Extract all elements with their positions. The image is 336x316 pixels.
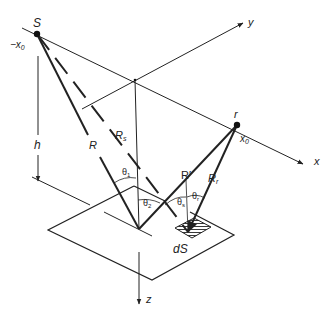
surface-plane [48,186,234,280]
receiver-point [234,122,240,128]
origin-point [134,79,137,82]
theta-r-label: θr [192,191,199,202]
Rprime-label: R′ [181,169,191,181]
h-reference-line [32,177,90,205]
theta1-label: θ1 [122,167,131,178]
source-point [34,31,40,37]
y-axis-label: y [247,16,255,28]
source-coord-label: −x0 [10,39,25,51]
path-R-lower [100,157,139,229]
Rr-label: Rr [208,172,219,185]
z-axis-label: z [145,293,152,305]
surface-element-dS [175,218,211,238]
path-Rs [37,34,188,232]
path-R-upper [37,34,88,135]
dS-label: dS [173,242,188,256]
x-axis [22,28,303,164]
Rs-label: Rs [115,129,127,142]
h-label: h [34,138,41,152]
theta-s-label: θs [177,197,185,208]
source-label: S [33,16,41,30]
x-axis-label: x [313,155,320,167]
scattering-geometry-diagram: S −x0 y x z r x0 h R Rs R′ Rr θ1 θ2 θs θ… [0,0,336,316]
R-label: R [89,139,97,151]
origin-vertical-line [135,80,139,229]
receiver-label: r [234,108,239,120]
receiver-coord-label: x0 [239,133,249,145]
theta1-arc [114,178,136,183]
